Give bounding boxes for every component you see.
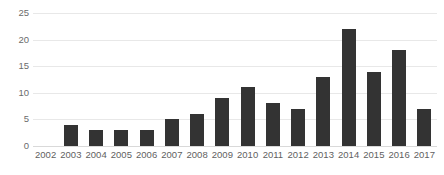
bar bbox=[392, 50, 406, 146]
bar bbox=[64, 125, 78, 146]
bar bbox=[417, 109, 431, 146]
bar bbox=[316, 77, 330, 146]
bar-slot bbox=[159, 13, 184, 146]
bar bbox=[342, 29, 356, 146]
y-axis-tick-label: 0 bbox=[3, 141, 29, 151]
bar-slot bbox=[311, 13, 336, 146]
x-axis-tick-label: 2009 bbox=[210, 150, 235, 160]
bar-slot bbox=[210, 13, 235, 146]
bar bbox=[215, 98, 229, 146]
bar-slot bbox=[134, 13, 159, 146]
y-axis-tick-label: 20 bbox=[3, 35, 29, 45]
bar bbox=[291, 109, 305, 146]
bar-slot bbox=[412, 13, 437, 146]
bar bbox=[367, 72, 381, 146]
bar-slot bbox=[33, 13, 58, 146]
bar bbox=[190, 114, 204, 146]
bar-slot bbox=[109, 13, 134, 146]
x-axis-tick-label: 2013 bbox=[311, 150, 336, 160]
bar-slot bbox=[84, 13, 109, 146]
x-axis-tick-label: 2008 bbox=[185, 150, 210, 160]
gridline-0 bbox=[33, 146, 437, 147]
bar bbox=[266, 103, 280, 146]
x-axis-tick-label: 2004 bbox=[84, 150, 109, 160]
x-axis-tick-label: 2003 bbox=[58, 150, 83, 160]
bar-chart: 0510152025 20022003200420052006200720082… bbox=[0, 0, 444, 175]
bar-slot bbox=[185, 13, 210, 146]
x-axis-tick-label: 2007 bbox=[159, 150, 184, 160]
x-axis-tick-label: 2002 bbox=[33, 150, 58, 160]
bar-slot bbox=[260, 13, 285, 146]
bar bbox=[140, 130, 154, 146]
plot-area bbox=[33, 13, 437, 146]
x-axis-tick-label: 2015 bbox=[361, 150, 386, 160]
x-axis-tick-label: 2014 bbox=[336, 150, 361, 160]
bar-slot bbox=[235, 13, 260, 146]
x-axis-tick-label: 2010 bbox=[235, 150, 260, 160]
bar bbox=[241, 87, 255, 146]
bar-slot bbox=[336, 13, 361, 146]
x-axis-tick-label: 2011 bbox=[260, 150, 285, 160]
x-axis-tick-label: 2017 bbox=[412, 150, 437, 160]
bar-slot bbox=[286, 13, 311, 146]
x-axis-tick-label: 2016 bbox=[387, 150, 412, 160]
x-axis: 2002200320042005200620072008200920102011… bbox=[33, 150, 437, 160]
bar bbox=[165, 119, 179, 146]
y-axis-tick-label: 15 bbox=[3, 61, 29, 71]
x-axis-tick-label: 2012 bbox=[286, 150, 311, 160]
y-axis-tick-label: 5 bbox=[3, 115, 29, 125]
bar-slot bbox=[58, 13, 83, 146]
x-axis-tick-label: 2006 bbox=[134, 150, 159, 160]
y-axis-tick-label: 10 bbox=[3, 88, 29, 98]
y-axis-tick-label: 25 bbox=[3, 8, 29, 18]
bar-series bbox=[33, 13, 437, 146]
bar-slot bbox=[361, 13, 386, 146]
y-axis: 0510152025 bbox=[0, 13, 29, 146]
x-axis-tick-label: 2005 bbox=[109, 150, 134, 160]
bar bbox=[114, 130, 128, 146]
bar bbox=[89, 130, 103, 146]
bar-slot bbox=[387, 13, 412, 146]
